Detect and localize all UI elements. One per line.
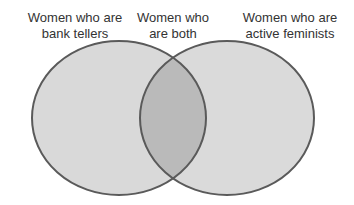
label-intersection: Women who are both [128,10,218,42]
label-right-line2: active feminists [230,26,350,42]
label-left-line2: bank tellers [10,26,140,42]
label-intersection-line2: are both [128,26,218,42]
label-right-set: Women who are active feminists [230,10,350,42]
label-left-line1: Women who are [10,10,140,26]
label-right-line1: Women who are [230,10,350,26]
label-left-set: Women who are bank tellers [10,10,140,42]
label-intersection-line1: Women who [128,10,218,26]
